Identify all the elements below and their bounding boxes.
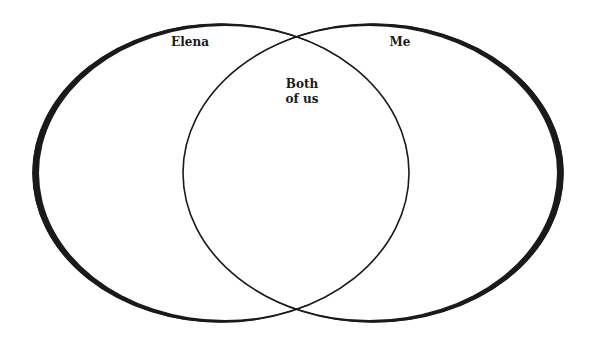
label-me: Me [380,35,420,50]
venn-diagram: Elena Me Both of us [0,0,594,340]
label-both-line2: of us [277,92,327,107]
label-elena: Elena [160,35,220,50]
label-both-of-us: Both of us [277,77,327,107]
venn-diagram-svg [0,0,594,340]
label-both-line1: Both [277,77,327,92]
ellipse-me [183,24,564,323]
